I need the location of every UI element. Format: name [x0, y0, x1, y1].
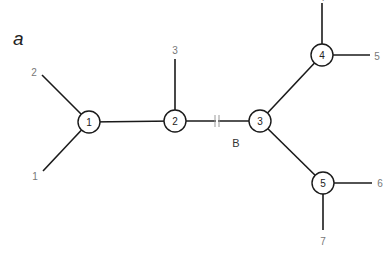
internal-nodes: 12345 — [78, 44, 334, 194]
leaf-label-7: 7 — [320, 236, 326, 247]
branch-label-b: B — [232, 137, 239, 149]
node-label: 4 — [319, 50, 325, 61]
internal-node-4: 4 — [311, 44, 333, 66]
internal-node-3: 3 — [249, 110, 271, 132]
node-label: 2 — [172, 116, 178, 127]
internal-edge-3-4 — [260, 55, 322, 121]
leaf-label-3: 3 — [172, 45, 178, 56]
internal-edge-1-2 — [89, 121, 175, 122]
internal-node-1: 1 — [78, 111, 100, 133]
leaf-label-6: 6 — [377, 178, 383, 189]
leaf-label-4: 4 — [319, 0, 325, 3]
panel-label: a — [13, 28, 24, 49]
node-label: 1 — [86, 117, 92, 128]
leaf-label-1: 1 — [32, 171, 38, 182]
internal-node-2: 2 — [164, 110, 186, 132]
node-label: 5 — [320, 178, 326, 189]
leaf-label-2: 2 — [31, 67, 37, 78]
leaf-label-5: 5 — [374, 51, 380, 62]
node-label: 3 — [257, 116, 263, 127]
phylogenetic-tree-diagram: 12345 1234567 a B — [0, 0, 391, 255]
internal-edge-3-5 — [260, 121, 323, 183]
internal-node-5: 5 — [312, 172, 334, 194]
